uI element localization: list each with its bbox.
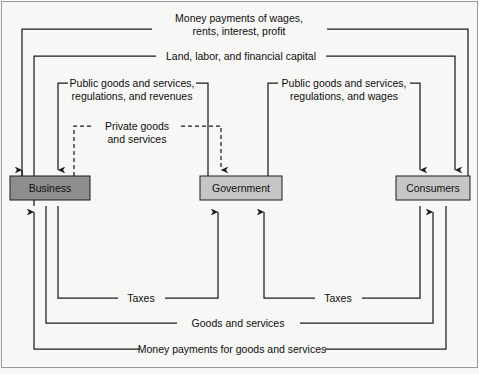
label-land-labor-capital: Land, labor, and financial capital: [166, 50, 316, 62]
label-public-goods-business-line1: Public goods and services,: [70, 77, 195, 89]
label-taxes-consumers: Taxes: [324, 292, 351, 304]
label-money-payments-wages-line2: rents, interest, profit: [193, 25, 286, 37]
node-consumers[interactable]: Consumers: [396, 176, 470, 200]
node-government-label: Government: [212, 182, 270, 194]
label-private-goods-line2: and services: [108, 133, 167, 145]
label-public-goods-consumers-line2: regulations, and wages: [290, 90, 398, 102]
label-taxes-business: Taxes: [127, 292, 154, 304]
label-public-goods-business-line2: regulations, and revenues: [72, 90, 193, 102]
label-goods-and-services: Goods and services: [192, 317, 285, 329]
label-money-payments-goods: Money payments for goods and services: [138, 343, 327, 355]
node-business-label: Business: [29, 182, 72, 194]
flow-path-goods-and-services: [46, 206, 433, 323]
label-public-goods-consumers-line1: Public goods and services,: [282, 77, 407, 89]
label-money-payments-wages-line1: Money payments of wages,: [175, 12, 303, 24]
circular-flow-diagram: Money payments of wages, rents, interest…: [0, 0, 479, 374]
label-private-goods-line1: Private goods: [105, 120, 169, 132]
node-government[interactable]: Government: [200, 176, 282, 200]
node-consumers-label: Consumers: [406, 182, 460, 194]
flow-svg: Money payments of wages, rents, interest…: [0, 0, 479, 374]
flow-path-taxes-business: [58, 206, 218, 298]
node-business[interactable]: Business: [10, 176, 90, 200]
flow-path-taxes-consumers: [264, 206, 420, 298]
